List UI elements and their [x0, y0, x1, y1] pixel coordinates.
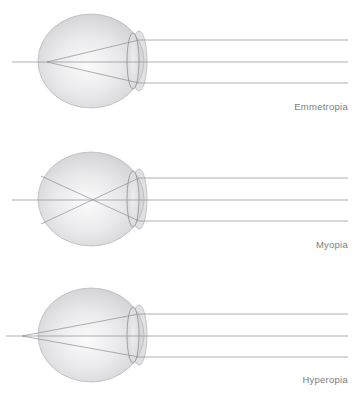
hyperopia-svg — [0, 278, 354, 406]
diagram-hyperopia: Hyperopia — [0, 278, 354, 406]
caption-emmetropia: Emmetropia — [294, 101, 348, 112]
emmetropia-svg — [0, 0, 354, 140]
incident-rays — [139, 314, 348, 357]
refractive-states-figure: light rays focusing on the retina — [0, 0, 354, 406]
diagram-emmetropia: Emmetropia — [0, 0, 354, 140]
caption-myopia: Myopia — [316, 239, 348, 250]
incident-rays — [139, 178, 348, 221]
caption-hyperopia: Hyperopia — [302, 374, 348, 385]
incident-rays — [139, 40, 348, 83]
myopia-svg — [0, 138, 354, 278]
diagram-myopia: Myopia — [0, 138, 354, 278]
